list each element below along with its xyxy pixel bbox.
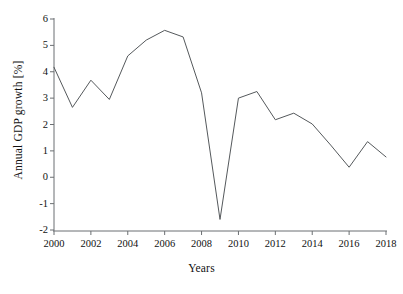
y-axis-ticks [50,19,54,230]
x-tick-label: 2008 [191,239,212,250]
y-tick-label: 4 [43,67,48,78]
y-tick-label: -2 [39,225,48,236]
x-tick-label: 2010 [228,239,249,250]
y-tick-label: 6 [43,14,48,25]
x-tick-label: 2012 [265,239,286,250]
x-tick-label: 2004 [117,239,138,250]
y-tick-label: 3 [43,93,48,104]
y-tick-label: -1 [39,198,48,209]
y-tick-label: 0 [43,172,48,183]
y-axis-title: Annual GDP growth [%] [12,30,24,210]
y-tick-label: 5 [43,40,48,51]
x-axis-ticks [54,231,386,235]
x-tick-label: 2002 [80,239,101,250]
x-tick-label: 2006 [154,239,175,250]
x-axis-tick-labels: 2000200220042006200820102012201420162018 [0,239,403,255]
x-tick-label: 2014 [302,239,323,250]
data-line [54,30,386,219]
x-tick-label: 2018 [376,239,397,250]
axis-lines [53,18,387,231]
x-axis-title: Years [0,262,403,274]
x-tick-label: 2000 [44,239,65,250]
y-tick-label: 2 [43,119,48,130]
chart-figure: -2-10123456 2000200220042006200820102012… [0,0,403,294]
data-series-group [54,30,386,219]
y-tick-label: 1 [43,146,48,157]
x-tick-label: 2016 [339,239,360,250]
